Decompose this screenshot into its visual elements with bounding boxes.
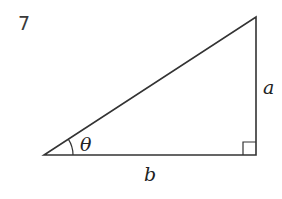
angle-label-theta: θ [80,133,92,155]
angle-arc [68,139,73,155]
side-label-a: a [263,76,274,98]
right-triangle [44,17,256,155]
triangle-diagram: θ a b [0,0,282,199]
right-angle-marker [243,142,256,155]
side-label-b: b [144,163,156,185]
